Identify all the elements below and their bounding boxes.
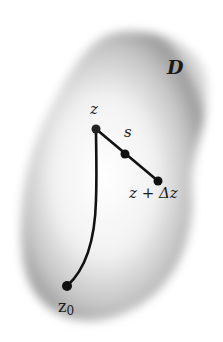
point-s-label: s — [124, 125, 132, 140]
region-canvas — [0, 0, 223, 342]
point-z — [92, 125, 101, 134]
point-z0-label: z0 — [58, 299, 74, 317]
point-s — [121, 150, 130, 159]
complex-region-diagram: D z s z + Δz z0 — [0, 0, 223, 342]
z0-label-subscript: 0 — [66, 304, 74, 318]
region-label: D — [167, 58, 183, 77]
point-z0 — [62, 281, 72, 291]
point-z-plus-dz-label: z + Δz — [129, 186, 178, 201]
point-z-label: z — [90, 102, 98, 117]
